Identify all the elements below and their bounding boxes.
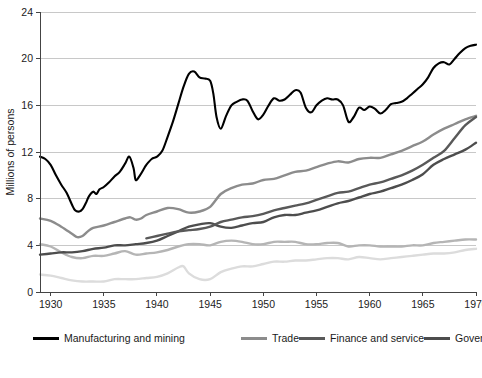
y-tick-label: 24 [21, 6, 33, 18]
x-tick-label: 1970 [464, 298, 482, 310]
x-tick-label: 1950 [252, 298, 276, 310]
y-tick-label: 16 [21, 99, 33, 111]
x-tick-label: 1940 [145, 298, 169, 310]
y-tick-label: 4 [27, 239, 33, 251]
series-line [40, 249, 476, 282]
series-line [40, 116, 476, 237]
chart-plot-area: 0481216202419301935194019451950195519601… [0, 0, 482, 378]
legend-entry[interactable]: Finance and service [299, 331, 424, 347]
legend-entry[interactable]: Manufacturing and mining [33, 331, 241, 347]
x-tick-label: 1960 [358, 298, 382, 310]
x-tick-label: 1930 [39, 298, 63, 310]
series-line [146, 117, 476, 238]
x-tick-label: 1965 [411, 298, 435, 310]
legend-swatch-icon [424, 337, 450, 340]
legend-swatch-icon [33, 337, 59, 340]
legend-entry[interactable]: Government [424, 331, 482, 347]
y-axis-title: Millions of persons [4, 109, 16, 196]
x-tick-label: 1935 [92, 298, 116, 310]
legend-label: Trade [272, 331, 299, 347]
y-tick-label: 8 [27, 192, 33, 204]
legend-label: Manufacturing and mining [64, 331, 185, 347]
series-line [40, 45, 476, 212]
y-tick-label: 0 [27, 286, 33, 298]
x-tick-label: 1945 [198, 298, 222, 310]
legend-swatch-icon [299, 337, 325, 340]
chart-legend: Manufacturing and miningTradeFinance and… [33, 331, 475, 377]
y-tick-label: 20 [21, 52, 33, 64]
y-tick-label: 12 [21, 146, 33, 158]
x-tick-label: 1955 [305, 298, 329, 310]
legend-label: Government [455, 331, 482, 347]
employment-by-industry-chart: 0481216202419301935194019451950195519601… [0, 0, 482, 378]
legend-swatch-icon [241, 337, 267, 340]
legend-entry[interactable]: Trade [241, 331, 299, 347]
legend-label: Finance and service [330, 331, 424, 347]
